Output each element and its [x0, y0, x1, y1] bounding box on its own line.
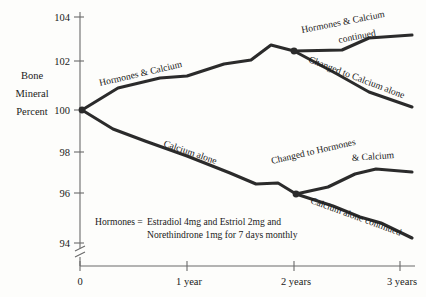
footnote-line-1: Estradiol 4mg and Estriol 2mg and	[147, 216, 281, 227]
y-tick-label-94: 94	[60, 238, 71, 249]
x-axis	[80, 261, 415, 271]
label-changed-to-hormones-calcium-line-1: Changed to Hormones	[270, 136, 357, 166]
y-axis-title-line-1: Bone	[21, 70, 44, 81]
footnote-line-2: Norethindrone 1mg for 7 days monthly	[147, 229, 298, 240]
y-tick-labels: 104 102 100 98 96 94	[54, 12, 71, 249]
x-tick-label-0: 0	[77, 276, 82, 287]
series-changed-to-hormones-calcium	[296, 169, 412, 194]
bone-mineral-chart: 104 102 100 98 96 94 Bone Mineral Percen…	[0, 0, 426, 297]
y-tick-label-96: 96	[60, 188, 71, 199]
y-tick-label-100: 100	[54, 105, 70, 116]
y-tick-label-98: 98	[60, 147, 71, 158]
label-calcium-alone-continued: Calcium alone continued	[309, 195, 403, 238]
y-axis-title-line-3: Percent	[16, 106, 48, 117]
x-tick-labels: 0 1 year 2 years 3 years	[77, 276, 417, 287]
y-axis-title: Bone Mineral Percent	[15, 70, 48, 117]
node-lower-branch	[293, 191, 300, 198]
x-tick-label-1y: 1 year	[176, 276, 202, 287]
footnote-label: Hormones =	[95, 216, 143, 227]
node-origin	[79, 107, 86, 114]
y-tick-label-102: 102	[54, 56, 70, 67]
y-axis	[74, 12, 85, 266]
label-changed-to-hormones-calcium-line-2: & Calcium	[351, 149, 395, 163]
node-upper-branch	[291, 48, 298, 55]
y-tick-label-104: 104	[54, 12, 71, 23]
label-changed-to-calcium-alone: Changed to Calcium alone	[307, 54, 406, 101]
chart-footnote: Hormones = Estradiol 4mg and Estriol 2mg…	[95, 216, 298, 240]
y-axis-title-line-2: Mineral	[15, 88, 48, 99]
x-tick-label-3y: 3 years	[387, 276, 417, 287]
x-tick-label-2y: 2 years	[281, 276, 311, 287]
